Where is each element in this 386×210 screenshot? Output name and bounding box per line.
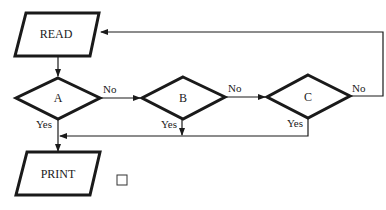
flowchart-canvas: READ A No B No C No Yes Yes Yes PRINT	[0, 0, 386, 210]
c-yes-label: Yes	[287, 117, 303, 129]
a-no-label: No	[103, 83, 117, 95]
node-print: PRINT	[16, 152, 100, 195]
flowchart-svg: READ A No B No C No Yes Yes Yes PRINT	[0, 0, 386, 210]
read-label: READ	[40, 27, 73, 41]
edge-c-yes	[60, 118, 308, 136]
c-label: C	[304, 90, 312, 104]
b-label: B	[179, 91, 187, 105]
edge-c-to-read	[101, 32, 383, 96]
b-no-label: No	[228, 82, 242, 94]
node-read: READ	[15, 13, 99, 56]
end-marker-square-icon	[117, 175, 127, 185]
node-b: B	[142, 77, 225, 119]
c-no-label: No	[352, 82, 366, 94]
print-label: PRINT	[41, 167, 76, 181]
node-a: A	[16, 78, 100, 119]
node-c: C	[267, 75, 350, 118]
b-yes-label: Yes	[161, 118, 177, 130]
a-yes-label: Yes	[36, 118, 52, 130]
a-label: A	[54, 91, 63, 105]
